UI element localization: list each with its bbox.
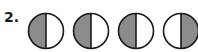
circle-figure-4 — [162, 12, 198, 50]
half-shaded-circle-icon — [27, 12, 65, 50]
circle-figure-1 — [27, 12, 65, 50]
half-shaded-circle-icon — [72, 12, 110, 50]
half-shaded-circle-icon — [117, 12, 155, 50]
circle-figure-2 — [72, 12, 110, 50]
problem-number: 2. — [4, 9, 19, 25]
circle-figure-3 — [117, 12, 155, 50]
worksheet-problem: 2. — [0, 0, 198, 52]
half-shaded-circle-icon — [162, 12, 198, 50]
